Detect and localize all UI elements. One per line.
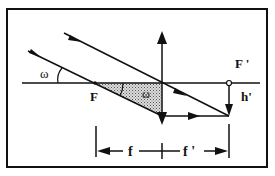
label-image-height: h' bbox=[241, 89, 252, 104]
focal-length-dimension bbox=[96, 124, 229, 159]
label-omega-left: ω bbox=[40, 66, 49, 81]
ray-arrow-icon bbox=[68, 35, 82, 42]
label-focus-f-prime: F ' bbox=[235, 56, 249, 71]
focus-point-f bbox=[93, 81, 97, 85]
ray-arrow-icon bbox=[188, 112, 200, 120]
angle-arc-left bbox=[58, 68, 62, 83]
focus-point-f-prime bbox=[227, 81, 232, 86]
ray-arrow-icon bbox=[29, 49, 42, 58]
lens-diagram: ω ω F F ' h' f f ' bbox=[0, 0, 275, 176]
label-f: f bbox=[128, 144, 133, 159]
lens-top-arrow-icon bbox=[157, 31, 167, 44]
ray-arrow-icon bbox=[173, 88, 187, 96]
label-omega-shaded: ω bbox=[142, 87, 150, 101]
label-focus-f: F bbox=[90, 89, 98, 104]
image-height-arrow bbox=[225, 85, 233, 116]
right-arrow-icon bbox=[215, 147, 228, 155]
label-f-prime: f ' bbox=[183, 144, 195, 159]
